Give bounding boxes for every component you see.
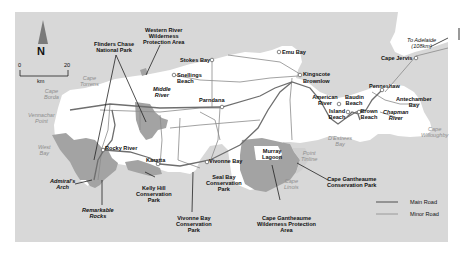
label-antechamber-bay: Antechamber Bay	[396, 96, 432, 108]
sea-cape-torrens: Cape Torrens	[80, 75, 99, 87]
scale-end: 20	[64, 62, 70, 68]
sea-point-tinline: Point Tinline	[301, 150, 317, 162]
label-remarkable-rocks: Remarkable Rocks	[82, 207, 114, 219]
label-kelly-hill: Kelly Hill Conservation Park	[136, 185, 172, 203]
label-chapman-river: Chapman River	[383, 109, 409, 121]
label-seal-bay: Seal Bay Conservation Park	[206, 174, 242, 192]
town-brownlow: Brownlow	[303, 78, 330, 84]
legend-main-road: Main Road	[410, 199, 437, 205]
label-cape-gantheaume-wpa: Cape Gantheaume Wilderness Protection Ar…	[257, 215, 316, 233]
label-to-adelaide: To Adelaide (108km)	[407, 37, 436, 49]
label-murray-lagoon: Murray Lagoon	[262, 148, 282, 160]
town-baudin-beach: Baudin Beach	[345, 94, 363, 106]
sea-cape-linois: Cape Linois	[284, 178, 299, 190]
town-emu-bay: Emu Bay	[282, 49, 306, 55]
town-american-river: American River	[311, 94, 339, 106]
town-karatta: Karatta	[146, 157, 165, 163]
sea-cape-borda: Cape Borda	[44, 88, 59, 100]
legend-minor-road: Minor Road	[410, 211, 439, 217]
town-snellings-beach: Snellings Beach	[177, 72, 205, 84]
town-cape-jervis: Cape Jervis	[381, 55, 412, 61]
town-penneshaw: Penneshaw	[369, 83, 400, 89]
sea-west-bay: West Bay	[38, 144, 51, 156]
town-island-beach: Island Beach	[328, 108, 346, 120]
label-flinders-chase: Flinders Chase National Park	[94, 41, 134, 53]
label-middle-river: Middle River	[153, 86, 171, 98]
label-admirals-arch: Admiral's Arch	[50, 178, 75, 190]
label-vivonne-bay-cp: Vivonne Bay Conservation Park	[176, 215, 212, 233]
town-brown-beach: Brown Beach	[360, 108, 378, 120]
compass-label: N	[37, 46, 45, 57]
scale-start: 0	[18, 62, 21, 68]
label-cape-gantheaume-cp: Cape Gantheaume Conservation Park	[327, 176, 376, 188]
kangaroo-island-map	[0, 0, 462, 258]
town-parndana: Parndana	[199, 97, 225, 103]
sea-destrees-bay: D'Estrees Bay	[328, 135, 352, 147]
scale-unit: km	[37, 78, 44, 84]
sea-cape-willoughby: Cape Willoughby	[421, 126, 448, 138]
town-kingscote: Kingscote	[303, 71, 330, 77]
label-western-river: Western River Wilderness Protection Area	[143, 27, 184, 45]
town-stokes-bay: Stokes Bay	[180, 57, 210, 63]
page-edge-fragment	[458, 28, 460, 40]
town-rocky-river: Rocky River	[105, 145, 137, 151]
town-vivonne-bay: Vivonne Bay	[209, 158, 242, 164]
sea-vennachar-point: Vennachar Point	[28, 112, 55, 124]
